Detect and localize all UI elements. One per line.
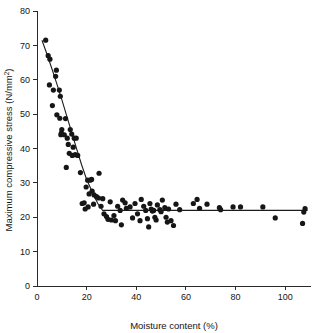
data-point xyxy=(147,201,152,206)
data-points-group xyxy=(43,38,308,230)
data-point xyxy=(155,202,160,207)
data-point xyxy=(54,68,59,73)
data-point xyxy=(168,218,173,223)
y-tick-label: 30 xyxy=(20,178,30,188)
data-point xyxy=(137,218,142,223)
data-point xyxy=(96,171,101,176)
data-point xyxy=(191,201,196,206)
x-axis-ticks xyxy=(87,286,286,290)
y-tick-label: 70 xyxy=(20,41,30,51)
data-point xyxy=(111,213,116,218)
chart-figure: 01020304050607080 020406080100 Moisture … xyxy=(0,0,317,333)
data-point xyxy=(197,206,202,211)
x-tick-label: 20 xyxy=(82,292,92,302)
x-axis-tick-labels: 020406080100 xyxy=(34,292,292,302)
x-axis-title: Moisture content (%) xyxy=(130,320,218,331)
x-tick-label: 100 xyxy=(278,292,293,302)
data-point xyxy=(82,200,87,205)
y-tick-label: 40 xyxy=(20,144,30,154)
y-tick-label: 80 xyxy=(20,6,30,16)
data-point xyxy=(68,127,73,132)
data-point xyxy=(53,74,58,79)
data-point xyxy=(139,197,144,202)
data-point xyxy=(84,184,89,189)
data-point xyxy=(260,204,265,209)
y-axis-ticks xyxy=(33,11,37,286)
y-tick-label: 60 xyxy=(20,75,30,85)
data-point xyxy=(154,217,159,222)
data-point xyxy=(238,204,243,209)
data-point xyxy=(75,153,80,158)
y-tick-label: 20 xyxy=(20,212,30,222)
data-point xyxy=(146,224,151,229)
data-point xyxy=(218,207,223,212)
data-point xyxy=(158,209,163,214)
data-point xyxy=(66,142,71,147)
data-point xyxy=(177,207,182,212)
data-point xyxy=(123,200,128,205)
data-point xyxy=(63,116,68,121)
y-tick-label: 10 xyxy=(20,247,30,257)
x-tick-label: 80 xyxy=(231,292,241,302)
data-point xyxy=(127,204,132,209)
x-tick-label: 40 xyxy=(131,292,141,302)
y-axis-title-suffix: ) xyxy=(3,68,14,71)
data-point xyxy=(74,136,79,141)
data-point xyxy=(108,199,113,204)
data-point xyxy=(43,38,48,43)
data-point xyxy=(300,221,305,226)
data-point xyxy=(91,202,96,207)
data-point xyxy=(166,206,171,211)
data-point xyxy=(58,94,63,99)
data-point xyxy=(71,145,76,150)
axes xyxy=(33,11,311,290)
y-tick-label: 0 xyxy=(25,281,30,291)
data-point xyxy=(100,196,105,201)
data-point xyxy=(273,215,278,220)
fit-curve xyxy=(42,40,308,210)
data-point xyxy=(64,165,69,170)
data-point xyxy=(160,197,165,202)
data-point xyxy=(89,177,94,182)
y-tick-label: 50 xyxy=(20,109,30,119)
data-point xyxy=(47,82,52,87)
data-point xyxy=(83,206,88,211)
data-point xyxy=(113,218,118,223)
data-point xyxy=(145,216,150,221)
data-point xyxy=(230,204,235,209)
data-point xyxy=(151,208,156,213)
y-axis-title-main: Maximum compressive stress (N/mm xyxy=(3,75,14,231)
fit-curve-group xyxy=(42,40,308,210)
x-tick-label: 60 xyxy=(181,292,191,302)
data-point xyxy=(130,215,135,220)
data-point xyxy=(78,170,83,175)
data-point xyxy=(47,57,52,62)
data-point xyxy=(51,87,56,92)
data-point xyxy=(57,116,62,121)
data-point xyxy=(302,206,307,211)
y-axis-tick-labels: 01020304050607080 xyxy=(20,6,30,291)
scatter-plot: 01020304050607080 020406080100 Moisture … xyxy=(0,0,317,333)
data-point xyxy=(143,208,148,213)
data-point xyxy=(98,204,103,209)
data-point xyxy=(135,211,140,216)
data-point xyxy=(119,222,124,227)
data-point xyxy=(163,215,168,220)
x-tick-label: 0 xyxy=(34,292,39,302)
data-point xyxy=(118,208,123,213)
data-point xyxy=(65,136,70,141)
data-point xyxy=(57,87,62,92)
data-point xyxy=(173,202,178,207)
data-point xyxy=(132,201,137,206)
data-point xyxy=(50,103,55,108)
y-axis-title: Maximum compressive stress (N/mm2) xyxy=(3,68,15,231)
data-point xyxy=(171,223,176,228)
data-point xyxy=(194,197,199,202)
data-point xyxy=(204,202,209,207)
